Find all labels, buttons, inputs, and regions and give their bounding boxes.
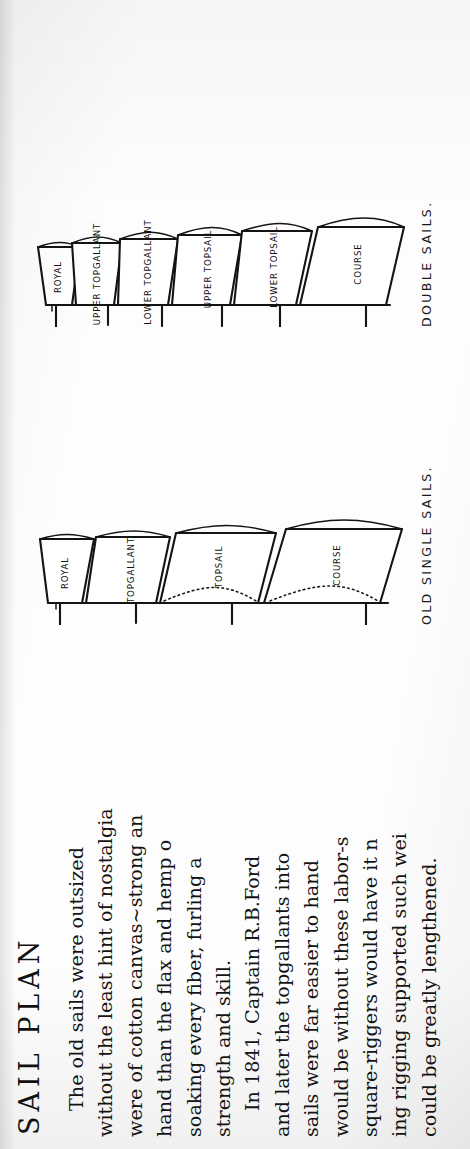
sail-label-royal: ROYAL [60,557,70,589]
sail-label-course: COURSE [332,544,342,585]
sail-label-royal: ROYAL [53,261,63,293]
text-line: hand than the flax and hemp o [150,672,179,1137]
sail-label-upper-topgallant: UPPER TOPGALLANT [92,223,102,325]
diagram-caption-double-sails: DOUBLE SAILS. [419,27,434,327]
scanned-page: SAIL PLAN The old sails were outsized wi… [0,0,470,1149]
diagram-old-single-sails: ROYAL TOPGALLANT TOPSAIL COURSE [36,335,436,625]
text-line: square-riggers would have it n [356,672,385,1137]
text-line: In 1841, Captain R.B.Ford [238,672,267,1137]
sail-label-lower-topgallant: LOWER TOPGALLANT [143,219,153,324]
text-line: strength and skill. [209,672,238,1137]
sail-label-lower-topsail: LOWER TOPSAIL [269,226,279,308]
sail-label-course: COURSE [353,243,363,284]
text-line: without the least hint of nostalgia [91,672,120,1137]
sail-label-topsail: TOPSAIL [214,546,224,589]
diagram-caption-old-single-sails: OLD SINGLE SAILS. [419,335,434,625]
page-title: SAIL PLAN [14,936,45,1135]
diagram-double-sails: ROYAL UPPER TOPGALLANT LOWER TOPGALLANT … [36,27,436,327]
body-text: The old sails were outsized without the … [62,672,444,1137]
text-line: and later the topgallants into [268,672,297,1137]
text-line: were of cotton canvas~strong an [121,672,150,1137]
rotated-artwork: SAIL PLAN The old sails were outsized wi… [0,0,470,1149]
sail-label-upper-topsail: UPPER TOPSAIL [203,230,213,309]
page-plate: SAIL PLAN The old sails were outsized wi… [0,0,470,1149]
text-line: ing rigging supported such wei [385,672,414,1137]
sail-label-topgallant: TOPGALLANT [126,537,136,604]
old-single-sails-drawing: ROYAL TOPGALLANT TOPSAIL COURSE [36,335,408,625]
text-line: would be without these labor-s [327,672,356,1137]
double-sails-drawing: ROYAL UPPER TOPGALLANT LOWER TOPGALLANT … [36,27,408,327]
text-line: sails were far easier to hand [297,672,326,1137]
text-line: The old sails were outsized [62,672,91,1137]
text-line: soaking every fiber, furling a [180,672,209,1137]
text-line: could be greatly lengthened. [415,672,444,1137]
